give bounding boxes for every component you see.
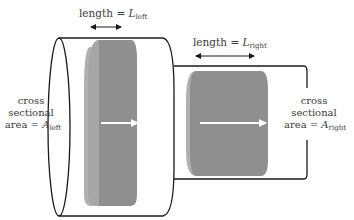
svg-text:area = Aleft: area = Aleft — [5, 119, 62, 132]
svg-text:area = Aright: area = Aright — [284, 119, 346, 132]
svg-text:cross: cross — [301, 95, 328, 106]
left-area-label: cross sectional area = Aleft — [5, 95, 62, 132]
right-area-label: cross sectional area = Aright — [284, 95, 346, 132]
right-length-label: length = Lright — [193, 36, 267, 50]
svg-text:sectional: sectional — [8, 107, 54, 118]
flow-tube-diagram: length = Lleft length = Lright cross sec… — [0, 0, 354, 220]
left-length-label: length = Lleft — [79, 7, 147, 21]
svg-text:cross: cross — [18, 95, 45, 106]
svg-text:sectional: sectional — [291, 107, 337, 118]
